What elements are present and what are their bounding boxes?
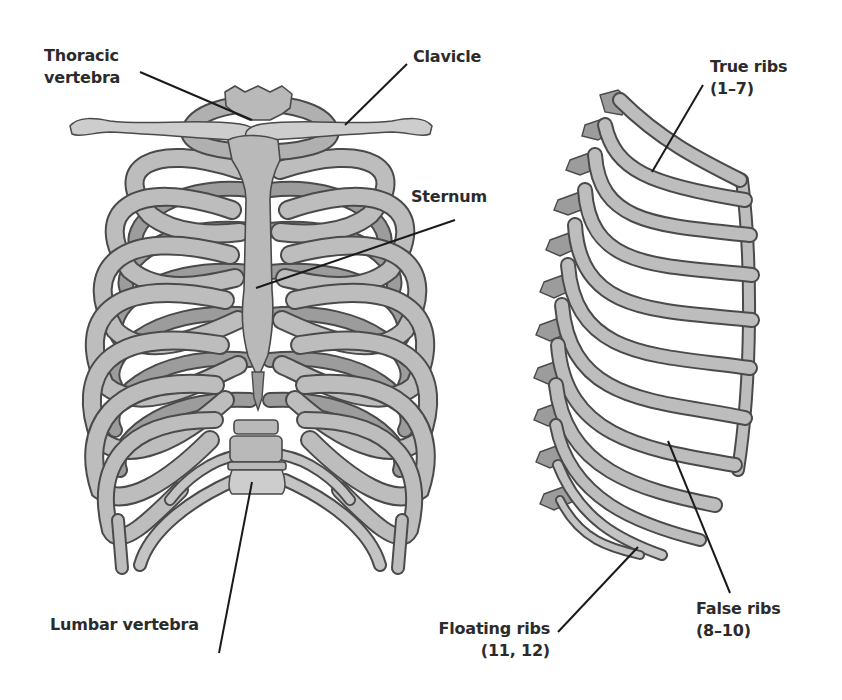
label-true-ribs-line1: True ribs	[710, 56, 787, 78]
label-false-ribs: False ribs (8–10)	[696, 598, 781, 642]
label-thoracic-vertebra-line1: Thoracic	[44, 45, 120, 67]
label-lumbar-vertebra-line1: Lumbar vertebra	[50, 614, 199, 636]
leader-lumbar-vertebra	[219, 482, 252, 653]
label-thoracic-vertebra: Thoracic vertebra	[44, 45, 120, 89]
label-clavicle-line1: Clavicle	[413, 46, 481, 68]
label-clavicle: Clavicle	[413, 46, 481, 68]
label-floating-ribs: Floating ribs (11, 12)	[438, 618, 550, 662]
label-lumbar-vertebra: Lumbar vertebra	[50, 614, 199, 636]
label-floating-ribs-line2: (11, 12)	[438, 640, 550, 662]
side-true-ribs	[562, 100, 752, 418]
front-view	[70, 86, 432, 568]
spine-lower	[228, 420, 286, 470]
leader-floating-ribs	[558, 547, 638, 632]
lumbar-vertebra	[229, 470, 285, 494]
thoracic-vertebra	[225, 86, 292, 120]
label-true-ribs: True ribs (1–7)	[710, 56, 787, 100]
side-view	[534, 90, 752, 555]
leader-clavicle	[345, 64, 407, 125]
label-false-ribs-line2: (8–10)	[696, 620, 781, 642]
label-sternum: Sternum	[411, 186, 487, 208]
label-true-ribs-line2: (1–7)	[710, 78, 787, 100]
label-false-ribs-line1: False ribs	[696, 598, 781, 620]
label-floating-ribs-line1: Floating ribs	[438, 618, 550, 640]
label-sternum-line1: Sternum	[411, 186, 487, 208]
clavicle-left	[70, 119, 256, 141]
label-thoracic-vertebra-line2: vertebra	[44, 67, 120, 89]
rib-cage-diagram	[0, 0, 842, 700]
